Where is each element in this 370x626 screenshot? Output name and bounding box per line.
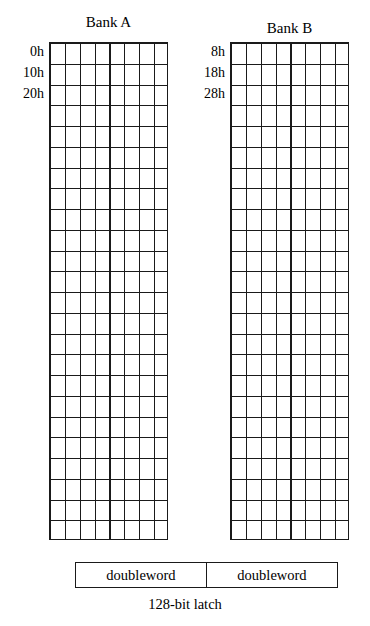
latch-doubleword-low: doubleword (76, 563, 206, 587)
latch-box: doubleword doubleword (75, 562, 338, 588)
bank-a-title: Bank A (49, 13, 168, 31)
latch-doubleword-high: doubleword (206, 563, 337, 587)
memory-bank-diagram: Bank A Bank B 0h 10h 20h 8h 18h 28h doub… (0, 0, 370, 626)
bank-b-title: Bank B (230, 19, 349, 37)
latch-caption: 128-bit latch (0, 596, 370, 613)
bank-b-address-label: 8h (181, 42, 225, 63)
bank-a-address-labels: 0h 10h 20h (0, 42, 44, 104)
bank-a-address-label: 20h (0, 84, 44, 105)
bank-b-address-labels: 8h 18h 28h (181, 42, 225, 104)
bank-b-memory-array (230, 42, 349, 540)
bank-a-address-label: 10h (0, 63, 44, 84)
bank-b-address-label: 18h (181, 63, 225, 84)
bank-a-address-label: 0h (0, 42, 44, 63)
bank-b-address-label: 28h (181, 84, 225, 105)
bank-a-memory-array (49, 42, 168, 540)
